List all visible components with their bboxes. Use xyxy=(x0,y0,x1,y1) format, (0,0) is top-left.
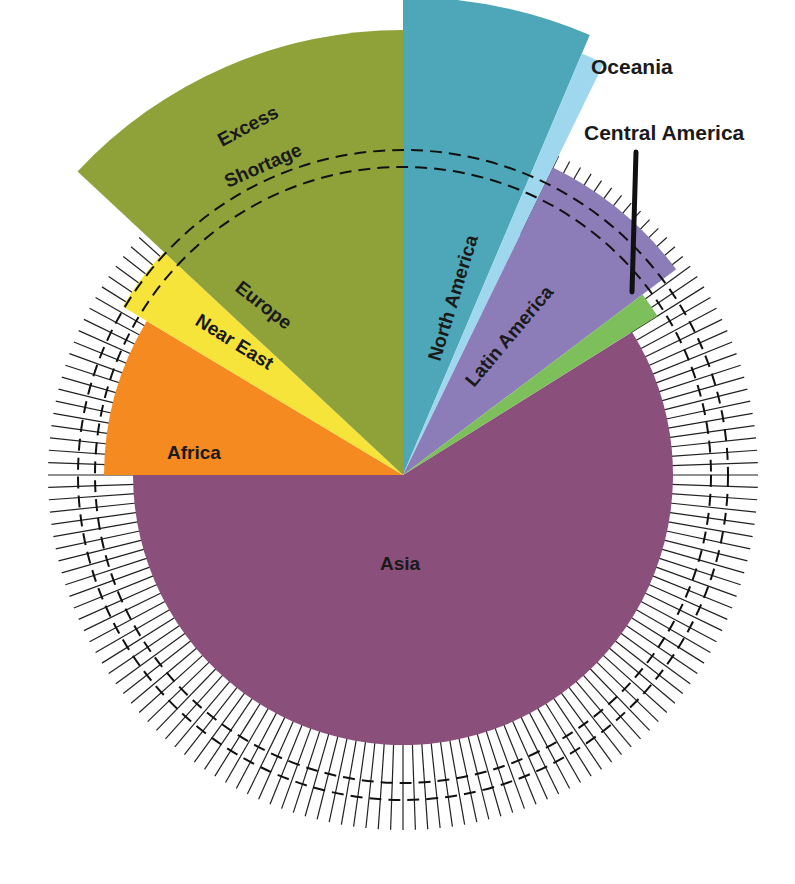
tick-line xyxy=(568,686,622,755)
tick-line xyxy=(625,625,697,674)
tick-line xyxy=(431,742,440,829)
tick-line xyxy=(184,686,238,755)
tick-line xyxy=(671,484,758,487)
label-oceania: Oceania xyxy=(591,55,673,78)
label-central-america: Central America xyxy=(584,121,745,144)
tick-line xyxy=(670,450,757,456)
tick-line xyxy=(148,661,211,721)
tick-line xyxy=(354,740,366,826)
tick-line xyxy=(116,633,186,684)
tick-line xyxy=(194,692,245,762)
tick-line xyxy=(670,503,757,512)
tick-line xyxy=(391,743,394,830)
tick-line xyxy=(51,512,137,524)
tick-line xyxy=(62,549,146,573)
tick-line xyxy=(596,661,659,721)
tick-line xyxy=(661,377,745,401)
tick-line xyxy=(529,712,570,789)
tick-line xyxy=(620,633,690,684)
tick-line xyxy=(50,503,137,512)
tick-line xyxy=(635,609,710,653)
label-africa: Africa xyxy=(167,442,221,463)
tick-line xyxy=(670,438,757,447)
tick-line xyxy=(545,702,591,776)
tick-line xyxy=(589,668,649,731)
tick-line xyxy=(671,463,758,466)
tick-line xyxy=(226,707,270,782)
tick-line xyxy=(378,742,384,829)
polar-area-chart: Excess Shortage Europe Near East Africa … xyxy=(0,0,795,884)
tick-line xyxy=(236,712,277,789)
tick-line xyxy=(317,735,338,819)
tick-line xyxy=(537,707,581,782)
tick-line xyxy=(90,601,167,642)
tick-line xyxy=(486,730,513,813)
tick-line xyxy=(123,640,192,694)
tick-line xyxy=(48,484,135,487)
tick-line xyxy=(640,601,717,642)
tick-line xyxy=(156,668,216,731)
tick-line xyxy=(668,512,754,524)
tick-line xyxy=(608,647,675,703)
tick-line xyxy=(614,640,683,694)
tick-line xyxy=(59,540,143,561)
tick-line xyxy=(670,494,757,500)
tick-line xyxy=(215,702,261,776)
tick-line xyxy=(477,733,501,817)
label-asia: Asia xyxy=(380,553,421,574)
tick-line xyxy=(305,733,329,817)
tick-line xyxy=(663,389,747,410)
tick-line xyxy=(561,692,612,762)
tick-line xyxy=(661,549,745,573)
tick-line xyxy=(663,540,747,561)
tick-line xyxy=(49,494,136,500)
tick-line xyxy=(96,609,171,653)
tick-line xyxy=(366,742,375,829)
tick-line xyxy=(468,735,489,819)
tick-line xyxy=(668,426,754,438)
tick-line xyxy=(412,743,415,830)
tick-line xyxy=(422,742,428,829)
tick-line xyxy=(440,740,452,826)
